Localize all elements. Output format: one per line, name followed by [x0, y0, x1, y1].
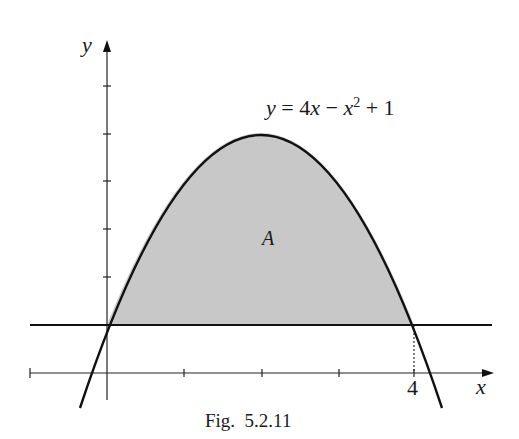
- y-axis-arrow-icon: [103, 40, 111, 52]
- eq-plus: + 1: [360, 95, 394, 120]
- figure-plot: [0, 0, 519, 439]
- eq-minus: −: [320, 95, 343, 120]
- x-tick-label-4: 4: [407, 375, 418, 401]
- figure-caption: Fig. 5.2.11: [205, 410, 291, 432]
- curve-equation: y = 4x − x2 + 1: [266, 95, 395, 121]
- eq-lhs: y: [266, 95, 276, 120]
- eq-x1: x: [310, 95, 320, 120]
- eq-x2: x: [343, 95, 353, 120]
- eq-eq: = 4: [276, 95, 310, 120]
- region-label-a: A: [262, 227, 274, 250]
- y-axis-label: y: [82, 32, 92, 58]
- x-axis-label: x: [476, 374, 486, 400]
